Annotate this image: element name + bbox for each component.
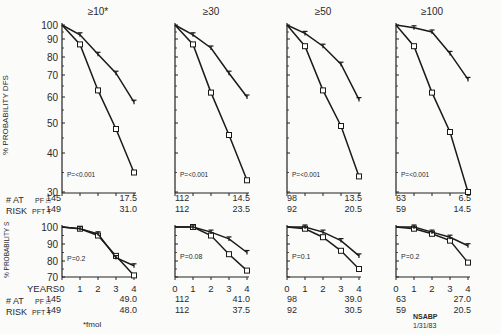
x-tick-label: 0 xyxy=(284,283,289,294)
square-marker xyxy=(132,170,137,175)
at-risk-pft-end: 14.5 xyxy=(453,204,471,214)
square-marker xyxy=(321,88,326,93)
x-tick-label: 0 xyxy=(393,283,398,294)
x-tick-label: 2 xyxy=(208,283,213,294)
p-value: P=0.08 xyxy=(180,253,202,260)
square-marker xyxy=(339,248,344,253)
square-marker xyxy=(132,273,137,278)
p-value: P=<0.001 xyxy=(292,171,321,178)
square-marker xyxy=(227,133,232,138)
bottom-ylabel: % PROBABILITY S xyxy=(4,222,11,278)
square-marker xyxy=(430,90,435,95)
at-risk-pft-start: 112 xyxy=(175,305,189,315)
p-value: P=<0.001 xyxy=(401,171,430,178)
square-marker xyxy=(245,268,250,273)
series-line-pf xyxy=(62,25,134,173)
pft-label-bottom: PFT T xyxy=(32,309,51,316)
panel-title: ≥50 xyxy=(315,6,332,17)
pft-label: PFT T xyxy=(32,208,51,215)
date-label: 1/31/83 xyxy=(413,322,436,329)
x-tick-label: 2 xyxy=(95,283,100,294)
risk-label: RISK xyxy=(6,207,27,216)
x-tick-label: 1 xyxy=(302,283,307,294)
at-risk-pft-start: 92 xyxy=(287,305,297,315)
at-risk-pft-end: 23.5 xyxy=(232,204,250,214)
x-tick-label: 3 xyxy=(113,283,118,294)
at-risk-pft-start: 59 xyxy=(396,204,406,214)
at-risk-pf-end: 6.5 xyxy=(458,193,471,203)
at-risk-pf-end: 49.0 xyxy=(119,294,137,304)
at-risk-label: # AT xyxy=(6,196,24,205)
y-tick-label: 50 xyxy=(47,118,59,129)
x-tick-label: 4 xyxy=(131,283,136,294)
at-risk-pft-start: 112 xyxy=(175,204,189,214)
square-marker xyxy=(339,124,344,129)
x-tick-label: 4 xyxy=(244,283,249,294)
at-risk-pft-start: 59 xyxy=(396,305,406,315)
x-tick-label: 1 xyxy=(190,283,195,294)
square-marker xyxy=(466,260,471,265)
pf-label-bottom: PF □ xyxy=(35,298,50,305)
square-marker xyxy=(321,235,326,240)
x-tick-label: 1 xyxy=(77,283,82,294)
at-risk-pft-end: 30.5 xyxy=(344,305,362,315)
square-marker xyxy=(191,42,196,47)
source-label: NSABP xyxy=(413,313,438,320)
footnote: *fmol xyxy=(83,321,101,329)
at-risk-pf-start: 112 xyxy=(175,294,189,304)
square-marker xyxy=(303,44,308,49)
y-tick-label: 100 xyxy=(41,222,58,233)
square-marker xyxy=(78,42,83,47)
x-tick-label: 3 xyxy=(226,283,231,294)
y-tick-label: 100 xyxy=(41,20,58,31)
at-risk-pf-start: 63 xyxy=(396,294,406,304)
at-risk-pf-start: 63 xyxy=(396,193,406,203)
at-risk-pf-end: 27.0 xyxy=(453,294,471,304)
p-value: P=<0.001 xyxy=(180,171,209,178)
p-value: P=0.2 xyxy=(67,255,86,262)
y-tick-label: 40 xyxy=(47,148,59,159)
at-risk-pf-start: 112 xyxy=(175,193,189,203)
at-risk-pf-end: 13.5 xyxy=(344,193,362,203)
at-risk-label-bottom: # AT xyxy=(6,297,24,306)
at-risk-pft-start: 92 xyxy=(287,204,297,214)
y-tick-label: 80 xyxy=(47,52,59,63)
p-value: P=<0.001 xyxy=(67,171,96,178)
y-tick-label: 80 xyxy=(47,256,59,267)
y-tick-label: 70 xyxy=(47,70,59,81)
square-marker xyxy=(114,127,119,132)
x-tick-label: 3 xyxy=(338,283,343,294)
at-risk-pf-end: 39.0 xyxy=(344,294,362,304)
square-marker xyxy=(227,252,232,257)
at-risk-pft-end: 31.0 xyxy=(119,204,137,214)
at-risk-pf-start: 98 xyxy=(287,193,297,203)
at-risk-pft-end: 20.5 xyxy=(453,305,471,315)
at-risk-pft-end: 37.5 xyxy=(232,305,250,315)
y-tick-label: 60 xyxy=(47,92,59,103)
x-tick-label: 0 xyxy=(172,283,177,294)
p-value: P=0.1 xyxy=(292,253,311,260)
survival-figure: 1009080706050403010090807000001111222233… xyxy=(0,0,501,334)
at-risk-pft-end: 48.0 xyxy=(119,305,137,315)
top-ylabel: % PROBABILITY DFS xyxy=(2,75,10,155)
panel-title: ≥10* xyxy=(88,6,109,17)
at-risk-pft-end: 20.5 xyxy=(344,204,362,214)
square-marker xyxy=(357,174,362,179)
p-value: P=0.2 xyxy=(401,253,420,260)
square-marker xyxy=(357,267,362,272)
x-tick-label: 3 xyxy=(447,283,452,294)
square-marker xyxy=(448,130,453,135)
square-marker xyxy=(96,88,101,93)
pf-label: PF □ xyxy=(35,197,50,204)
y-tick-label: 70 xyxy=(47,272,59,283)
x-tick-label: 2 xyxy=(320,283,325,294)
x-tick-label: 1 xyxy=(411,283,416,294)
xlabel: YEARS xyxy=(27,284,59,294)
y-tick-label: 90 xyxy=(47,34,59,45)
at-risk-pf-end: 17.5 xyxy=(119,193,137,203)
panel-title: ≥100 xyxy=(421,6,444,17)
x-tick-label: 4 xyxy=(465,283,470,294)
y-tick-label: 90 xyxy=(47,239,59,250)
x-tick-label: 0 xyxy=(59,283,64,294)
series-line-pf xyxy=(396,25,468,192)
